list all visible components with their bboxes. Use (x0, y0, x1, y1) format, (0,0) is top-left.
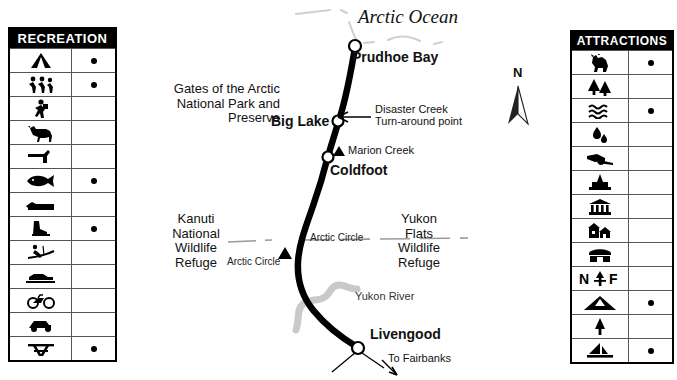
legend-row[interactable] (10, 96, 115, 120)
legend-recreation-title: RECREATION (10, 29, 115, 48)
annotation-arctic-circle-left: Arctic Circle (227, 256, 280, 267)
legend-row[interactable] (572, 290, 672, 314)
legend-row[interactable] (10, 168, 115, 192)
boating-icon (10, 193, 72, 216)
legend-row[interactable] (572, 50, 672, 74)
city-marker-livengood (352, 342, 364, 354)
legend-dot (72, 145, 115, 168)
legend-dot (72, 121, 115, 144)
legend-dot (629, 291, 672, 314)
legend-row[interactable] (572, 122, 672, 146)
legend-dot (72, 49, 115, 72)
legend-dot (629, 99, 672, 122)
legend-row[interactable] (10, 288, 115, 312)
legend-dot (72, 289, 115, 312)
annotation-arctic-circle-right: Arctic Circle (310, 232, 363, 243)
legend-dot (629, 267, 672, 290)
dalton-highway-path (298, 48, 357, 347)
legend-dot (629, 75, 672, 98)
city-label-livengood: Livengood (370, 327, 441, 343)
skiing-icon (10, 241, 72, 264)
camping-icon (10, 49, 72, 72)
svg-text:N: N (579, 271, 589, 287)
wildlife-viewing-icon (572, 51, 629, 74)
legend-row[interactable] (572, 314, 672, 338)
marion-creek-marker (333, 146, 345, 156)
legend-row[interactable] (10, 120, 115, 144)
area-label-kanuti: Kanuti National Wildlife Refuge (166, 212, 226, 270)
legend-row[interactable] (10, 312, 115, 336)
legend-row[interactable] (572, 242, 672, 266)
fishing-icon (10, 169, 72, 192)
legend-dot (629, 339, 672, 362)
legend-row[interactable] (10, 192, 115, 216)
legend-row[interactable] (572, 194, 672, 218)
backpacking-icon (10, 97, 72, 120)
legend-row[interactable] (10, 240, 115, 264)
legend-row[interactable] (10, 216, 115, 240)
off-road-vehicle-icon (10, 313, 72, 336)
legend-dot (629, 195, 672, 218)
horseback-riding-icon (10, 121, 72, 144)
compass-rose (508, 86, 528, 124)
legend-row[interactable] (10, 264, 115, 288)
legend-row[interactable] (572, 98, 672, 122)
legend-dot (629, 51, 672, 74)
legend-attractions: ATTRACTIONS (570, 30, 674, 364)
ice-skating-icon (10, 217, 72, 240)
annotation-to-fairbanks: To Fairbanks (388, 352, 451, 364)
legend-row[interactable] (572, 146, 672, 170)
legend-dot (629, 171, 672, 194)
legend-dot (72, 265, 115, 288)
city-marker-coldfoot (323, 152, 334, 163)
legend-dot (72, 97, 115, 120)
oil-well-icon (572, 171, 629, 194)
legend-dot (72, 241, 115, 264)
legend-row[interactable]: N F (572, 266, 672, 290)
map-canvas: Arctic Ocean Prudhoe Bay Big Lake Coldfo… (0, 0, 677, 380)
picnicking-icon (10, 337, 72, 360)
city-label-coldfoot: Coldfoot (330, 163, 388, 179)
legend-row[interactable] (10, 336, 115, 360)
hiking-icon (10, 73, 72, 96)
legend-dot (72, 169, 115, 192)
historic-houses-icon (572, 219, 629, 242)
legend-row[interactable] (10, 48, 115, 72)
legend-row[interactable] (572, 218, 672, 242)
sailboat-icon (572, 339, 629, 362)
ocean-label: Arctic Ocean (358, 6, 458, 27)
bicycling-icon (10, 289, 72, 312)
legend-dot (72, 193, 115, 216)
legend-row[interactable] (10, 144, 115, 168)
legend-dot (629, 315, 672, 338)
legend-dot (72, 337, 115, 360)
legend-dot (629, 219, 672, 242)
annotation-yukon-river: Yukon River (355, 290, 414, 302)
legend-row[interactable] (572, 170, 672, 194)
hot-springs-icon (572, 99, 629, 122)
area-label-yukon-flats: Yukon Flats Wildlife Refuge (388, 212, 450, 270)
cannon-icon (572, 147, 629, 170)
oil-drops-icon (572, 123, 629, 146)
legend-dot (72, 217, 115, 240)
mine-icon (572, 243, 629, 266)
legend-dot (629, 147, 672, 170)
annotation-marion-creek: Marion Creek (348, 144, 414, 156)
museum-icon (572, 195, 629, 218)
snowmobiling-icon (10, 265, 72, 288)
national-forest-icon: N F (572, 267, 629, 290)
legend-row[interactable] (572, 74, 672, 98)
legend-row[interactable] (572, 338, 672, 362)
mountain-icon (572, 291, 629, 314)
hunting-icon (10, 145, 72, 168)
legend-dot (629, 243, 672, 266)
compass-north-label: N (513, 66, 522, 81)
legend-dot (72, 313, 115, 336)
forest-icon (572, 75, 629, 98)
tree-icon (572, 315, 629, 338)
legend-attractions-title: ATTRACTIONS (572, 32, 672, 50)
legend-row[interactable] (10, 72, 115, 96)
legend-dot (72, 73, 115, 96)
city-label-prudhoe-bay: Prudhoe Bay (352, 50, 438, 66)
legend-dot (629, 123, 672, 146)
